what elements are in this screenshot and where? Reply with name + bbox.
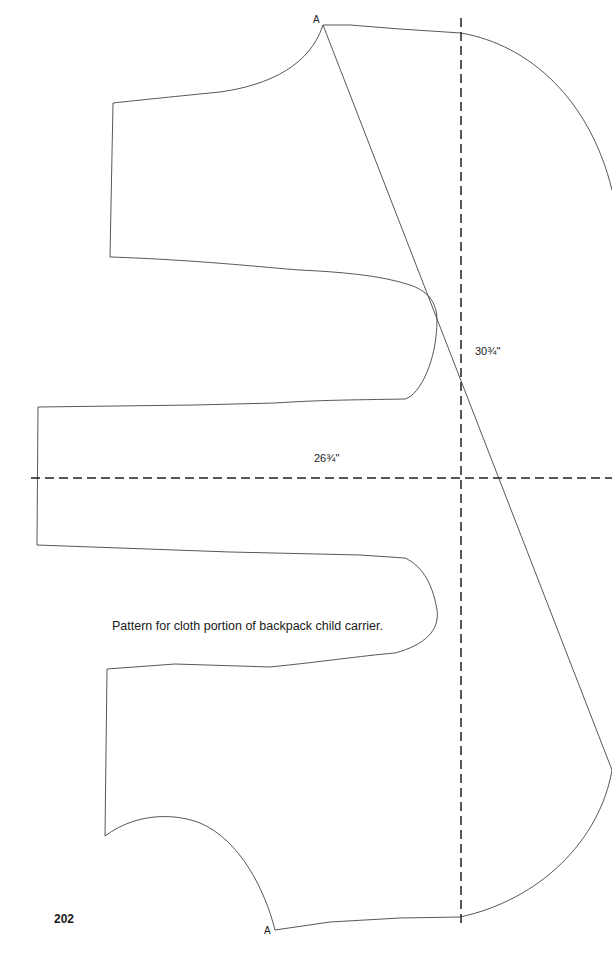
pattern-caption: Pattern for cloth portion of backpack ch… bbox=[112, 619, 383, 633]
point-label-top-a: A bbox=[313, 14, 320, 25]
pattern-drawing bbox=[0, 0, 612, 953]
page-number: 202 bbox=[54, 912, 74, 926]
vertical-dimension-label: 30¾" bbox=[475, 345, 500, 357]
horizontal-dimension-label: 26¾" bbox=[314, 452, 339, 464]
pattern-page: A A 30¾" 26¾" Pattern for cloth portion … bbox=[0, 0, 612, 953]
point-label-bottom-a: A bbox=[264, 925, 271, 936]
